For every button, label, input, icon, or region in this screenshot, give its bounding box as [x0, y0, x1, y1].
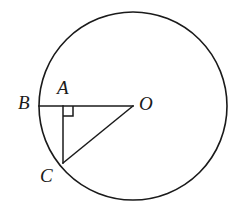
vertex-label-c: C: [40, 166, 53, 185]
geometry-figure: B A O C: [0, 0, 244, 215]
geometry-canvas: [0, 0, 244, 215]
vertex-label-b: B: [18, 93, 30, 112]
vertex-label-a: A: [57, 78, 69, 97]
right-angle-marker-icon: [63, 106, 73, 116]
vertex-label-o: O: [139, 94, 153, 113]
